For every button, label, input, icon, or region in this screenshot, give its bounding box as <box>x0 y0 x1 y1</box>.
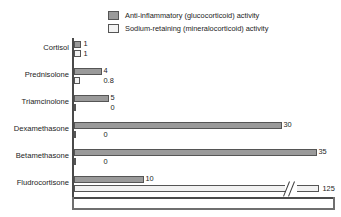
category-label-dexamethasone: Dexamethasone <box>14 124 69 134</box>
bar-sodium-retaining-betamethasone <box>74 158 76 165</box>
category-label-betamethasone: Betamethasone <box>16 151 69 161</box>
bottom-frame-line <box>72 208 334 210</box>
category-label-prednisolone: Prednisolone <box>25 70 69 80</box>
bar-anti-inflammatory-fludrocortisone <box>74 176 144 183</box>
value-label-sodium-retaining-prednisolone: 0.8 <box>104 77 114 85</box>
legend-swatch-dark-icon <box>108 11 119 20</box>
category-label-fludrocortisone: Fludrocortisone <box>17 178 69 188</box>
bar-row-dexamethasone: Dexamethasone 30 0 <box>0 119 341 145</box>
legend-label-anti-inflammatory: Anti-inflammatory (glucocorticoid) activ… <box>125 11 259 20</box>
value-label-sodium-retaining-dexamethasone: 0 <box>104 131 108 139</box>
bar-anti-inflammatory-betamethasone <box>74 149 317 156</box>
plot-area: Cortisol 1 1 Prednisolone 4 0.8 Triamcin… <box>0 38 341 203</box>
legend-swatch-light-icon <box>108 24 119 33</box>
category-label-cortisol: Cortisol <box>43 43 69 53</box>
value-label-sodium-retaining-betamethasone: 0 <box>104 158 108 166</box>
value-label-sodium-retaining-triamcinolone: 0 <box>111 104 115 112</box>
bar-row-prednisolone: Prednisolone 4 0.8 <box>0 65 341 91</box>
value-label-anti-inflammatory-prednisolone: 4 <box>104 67 108 75</box>
bar-anti-inflammatory-cortisol <box>74 41 81 48</box>
bar-row-cortisol: Cortisol 1 1 <box>0 38 341 64</box>
bar-sodium-retaining-cortisol <box>74 50 81 57</box>
bar-anti-inflammatory-triamcinolone <box>74 95 109 102</box>
bar-row-betamethasone: Betamethasone 35 0 <box>0 146 341 172</box>
value-label-sodium-retaining-fludrocortisone: 125 <box>323 185 335 193</box>
bar-chart-figure: Anti-inflammatory (glucocorticoid) activ… <box>0 0 341 217</box>
legend-label-sodium-retaining: Sodium-retaining (mineralocorticoid) act… <box>125 24 268 33</box>
value-label-anti-inflammatory-betamethasone: 35 <box>319 148 327 156</box>
legend-item-anti-inflammatory: Anti-inflammatory (glucocorticoid) activ… <box>108 10 336 21</box>
axis-break-icon <box>282 181 298 196</box>
value-label-anti-inflammatory-cortisol: 1 <box>84 40 88 48</box>
bar-anti-inflammatory-prednisolone <box>74 68 102 75</box>
value-label-sodium-retaining-cortisol: 1 <box>84 50 88 58</box>
value-label-anti-inflammatory-triamcinolone: 5 <box>111 94 115 102</box>
bar-sodium-retaining-dexamethasone <box>74 131 76 138</box>
bar-row-fludrocortisone: Fludrocortisone 10 125 <box>0 173 341 199</box>
bar-row-triamcinolone: Triamcinolone 5 0 <box>0 92 341 118</box>
value-label-anti-inflammatory-fludrocortisone: 10 <box>146 175 154 183</box>
value-label-anti-inflammatory-dexamethasone: 30 <box>284 121 292 129</box>
legend-item-sodium-retaining: Sodium-retaining (mineralocorticoid) act… <box>108 23 336 34</box>
chart-legend: Anti-inflammatory (glucocorticoid) activ… <box>108 10 336 36</box>
bar-sodium-retaining-prednisolone <box>74 77 80 84</box>
bar-sodium-retaining-triamcinolone <box>74 104 76 111</box>
bar-anti-inflammatory-dexamethasone <box>74 122 282 129</box>
category-label-triamcinolone: Triamcinolone <box>22 97 69 107</box>
